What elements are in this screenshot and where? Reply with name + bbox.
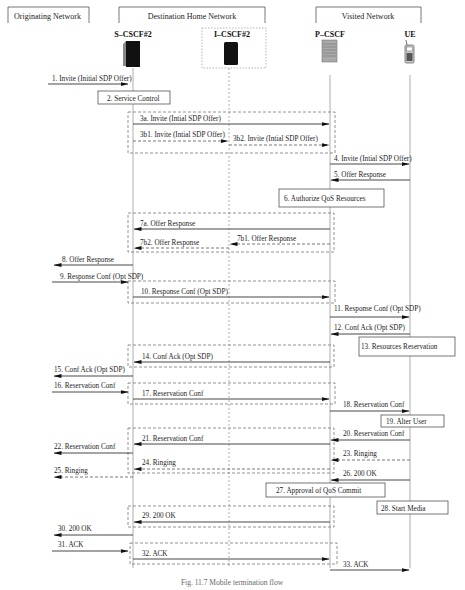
message-9: 9. Response Conf (Opt SDP) xyxy=(52,273,144,282)
node-ue: UE xyxy=(404,30,415,63)
svg-text:32. ACK: 32. ACK xyxy=(142,550,168,558)
action-start-media: 28. Start Media xyxy=(377,501,448,514)
message-30: 30. 200 OK xyxy=(54,525,133,535)
action-resources-reservation: 13. Resources Reservation xyxy=(359,337,455,356)
message-3b1: 3b1. Invite (Intial SDP Offer) xyxy=(133,131,228,141)
svg-text:3b1. Invite (Intial SDP Offer): 3b1. Invite (Intial SDP Offer) xyxy=(140,131,225,139)
svg-text:6. Authorize QoS Resources: 6. Authorize QoS Resources xyxy=(284,195,366,203)
message-23: 23. Ringing xyxy=(331,450,410,460)
message-16: 16. Reservation Conf xyxy=(52,382,128,392)
message-17: 17. Reservation Conf xyxy=(133,390,329,399)
message-5: 5. Offer Response xyxy=(331,171,410,180)
action-authorize-qos: 6. Authorize QoS Resources xyxy=(279,189,384,207)
server-rack-icon xyxy=(322,40,337,62)
message-20: 20. Reservation Conf xyxy=(331,430,410,440)
svg-text:30. 200 OK: 30. 200 OK xyxy=(58,525,93,533)
svg-text:13. Resources Reservation: 13. Resources Reservation xyxy=(361,343,438,351)
svg-text:8. Offer Response: 8. Offer Response xyxy=(62,256,114,264)
svg-text:3a. Invite (Intial SDP Offer): 3a. Invite (Intial SDP Offer) xyxy=(140,115,221,123)
network-originating: Originating Network xyxy=(8,7,89,23)
svg-text:22. Reservation Conf: 22. Reservation Conf xyxy=(54,443,116,451)
message-15: 15. Conf Ack (Opt SDP) xyxy=(54,366,133,376)
svg-text:4. Invite (Intial SDP Offer): 4. Invite (Intial SDP Offer) xyxy=(334,155,412,163)
message-3a: 3a. Invite (Intial SDP Offer) xyxy=(133,115,329,124)
message-29: 29. 200 OK xyxy=(134,512,330,522)
network-label: Destination Home Network xyxy=(148,12,236,21)
message-26: 26. 200 OK xyxy=(331,470,410,480)
svg-text:24. Ringing: 24. Ringing xyxy=(142,459,176,467)
svg-text:33. ACK: 33. ACK xyxy=(343,561,369,569)
svg-text:27. Approval of QoS Commit: 27. Approval of QoS Commit xyxy=(276,487,361,495)
svg-text:5. Offer Response: 5. Offer Response xyxy=(334,171,386,179)
svg-text:31. ACK: 31. ACK xyxy=(58,541,84,549)
message-32: 32. ACK xyxy=(133,550,329,559)
action-service-control: 2. Service Control xyxy=(98,91,170,104)
svg-text:14. Conf Ack (Opt SDP): 14. Conf Ack (Opt SDP) xyxy=(142,353,213,361)
node-pcscf: P–CSCF xyxy=(315,30,345,62)
message-12: 12. Conf Ack (Opt SDP) xyxy=(331,324,410,334)
message-14: 14. Conf Ack (Opt SDP) xyxy=(134,353,330,362)
message-3b2: 3b2. Invite (Intial SDP Offer) xyxy=(229,135,329,145)
svg-text:19. Alter User: 19. Alter User xyxy=(386,418,427,426)
svg-text:15. Conf Ack (Opt SDP): 15. Conf Ack (Opt SDP) xyxy=(54,366,125,374)
message-8: 8. Offer Response xyxy=(54,256,133,265)
network-visited: Visited Network xyxy=(316,7,421,23)
svg-text:20. Reservation Conf: 20. Reservation Conf xyxy=(343,430,405,438)
svg-text:11. Response Conf (Opt SDP): 11. Response Conf (Opt SDP) xyxy=(334,305,421,313)
node-label: S–CSCF#2 xyxy=(114,30,151,39)
server-tower-icon xyxy=(123,41,140,67)
message-7b1: 7b1. Offer Response xyxy=(230,235,330,244)
message-7a: 7a. Offer Response xyxy=(134,220,330,229)
node-label: P–CSCF xyxy=(315,30,345,39)
message-33: 33. ACK xyxy=(330,561,409,570)
svg-text:21. Reservation Conf: 21. Reservation Conf xyxy=(142,435,204,443)
message-18: 18. Reservation Conf xyxy=(330,401,409,411)
message-11: 11. Response Conf (Opt SDP) xyxy=(330,305,421,317)
svg-text:7b1. Offer Response: 7b1. Offer Response xyxy=(237,235,296,243)
figure-caption: Fig. 11.7 Mobile termination flow xyxy=(181,578,284,587)
svg-text:7a. Offer Response: 7a. Offer Response xyxy=(140,220,195,228)
svg-text:16. Reservation Conf: 16. Reservation Conf xyxy=(54,382,116,390)
sequence-diagram: Originating Network Destination Home Net… xyxy=(0,0,465,590)
message-31: 31. ACK xyxy=(52,541,128,551)
message-22: 22. Reservation Conf xyxy=(54,443,133,453)
svg-text:25. Ringing: 25. Ringing xyxy=(54,467,88,475)
network-label: Originating Network xyxy=(14,12,81,21)
svg-text:26. 200 OK: 26. 200 OK xyxy=(343,470,378,478)
node-icscf: I–CSCF#2 xyxy=(202,28,266,68)
server-tower-icon xyxy=(224,42,238,65)
svg-text:23. Ringing: 23. Ringing xyxy=(343,450,377,458)
svg-text:2. Service Control: 2. Service Control xyxy=(107,95,160,103)
svg-text:7b2. Offer Response: 7b2. Offer Response xyxy=(140,239,199,247)
network-destination: Destination Home Network xyxy=(119,7,265,23)
message-21: 21. Reservation Conf xyxy=(134,435,330,444)
mobile-phone-icon xyxy=(405,40,414,63)
svg-text:29. 200 OK: 29. 200 OK xyxy=(142,512,177,520)
message-1: 1. Invite (Initial SDP Offer) xyxy=(48,75,132,84)
action-approval-qos-commit: 27. Approval of QoS Commit xyxy=(266,483,385,497)
node-label: UE xyxy=(404,30,415,39)
svg-text:9. Response Conf (Opt SDP): 9. Response Conf (Opt SDP) xyxy=(60,273,144,281)
message-24: 24. Ringing xyxy=(134,459,330,469)
svg-text:1. Invite (Initial SDP Offer): 1. Invite (Initial SDP Offer) xyxy=(52,75,132,83)
svg-text:28. Start Media: 28. Start Media xyxy=(381,505,426,513)
svg-text:10. Response Conf (Opt SDP): 10. Response Conf (Opt SDP) xyxy=(141,288,228,296)
svg-text:3b2. Invite (Intial SDP Offer): 3b2. Invite (Intial SDP Offer) xyxy=(233,135,318,143)
svg-text:18. Reservation Conf: 18. Reservation Conf xyxy=(343,401,405,409)
action-alter-user: 19. Alter User xyxy=(381,415,444,427)
message-10: 10. Response Conf (Opt SDP) xyxy=(133,288,329,297)
svg-text:17. Reservation Conf: 17. Reservation Conf xyxy=(142,390,204,398)
svg-text:12. Conf Ack (Opt SDP): 12. Conf Ack (Opt SDP) xyxy=(334,324,405,332)
message-25: 25. Ringing xyxy=(54,467,133,477)
node-label: I–CSCF#2 xyxy=(214,30,250,39)
network-label: Visited Network xyxy=(342,12,395,21)
node-scscf: S–CSCF#2 xyxy=(114,30,151,67)
message-7b2: 7b2. Offer Response xyxy=(134,239,229,248)
message-4: 4. Invite (Intial SDP Offer) xyxy=(330,155,412,164)
